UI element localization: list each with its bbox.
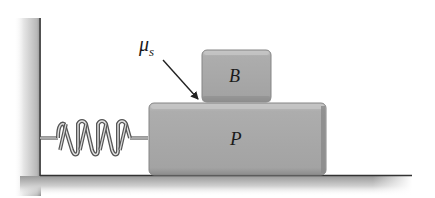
friction-coefficient-label: μs	[139, 34, 154, 57]
diagram-graphics	[0, 0, 435, 198]
block-b-label: B	[229, 67, 240, 85]
spring	[40, 121, 148, 155]
physics-diagram: μs B P	[0, 0, 435, 198]
wall	[14, 18, 41, 196]
mu-arrow	[163, 60, 198, 99]
block-p-label: P	[230, 129, 242, 148]
floor	[20, 176, 412, 197]
mu-symbol: μ	[139, 33, 149, 55]
mu-subscript: s	[149, 44, 154, 59]
